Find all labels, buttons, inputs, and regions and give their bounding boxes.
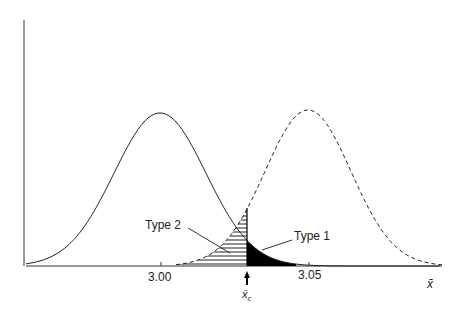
tick-label-3-05: 3.05	[298, 268, 321, 282]
type1-label: Type 1	[294, 229, 330, 243]
critical-value-label: x̄c	[242, 288, 252, 303]
critical-arrow-icon	[244, 271, 250, 285]
chart-canvas	[0, 0, 466, 322]
type2-leader	[188, 228, 230, 253]
tick-label-3-00: 3.00	[148, 270, 171, 284]
type1-leader	[262, 240, 292, 250]
type1-region	[247, 240, 296, 266]
type2-hatch	[170, 208, 247, 264]
null-curve	[26, 113, 440, 266]
x-axis-label: x̄	[427, 277, 433, 291]
type2-label: Type 2	[145, 218, 181, 232]
